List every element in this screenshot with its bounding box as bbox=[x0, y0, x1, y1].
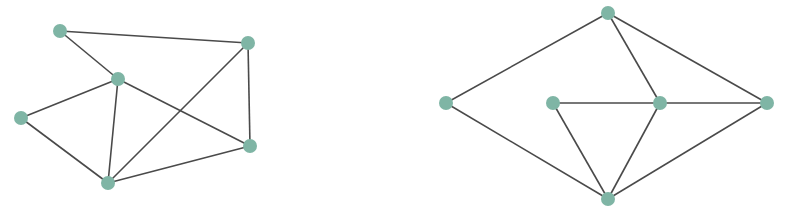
node-E bbox=[243, 139, 257, 153]
node-C bbox=[111, 72, 125, 86]
edge-P-Q bbox=[446, 13, 608, 103]
graph-left bbox=[14, 24, 257, 190]
edge-Q-U bbox=[446, 103, 608, 199]
node-Q bbox=[439, 96, 453, 110]
edge-C-E bbox=[118, 79, 250, 146]
edge-C-D bbox=[21, 79, 118, 118]
node-S bbox=[653, 96, 667, 110]
edge-P-T bbox=[608, 13, 767, 103]
edge-P-S bbox=[608, 13, 660, 103]
edge-D-F bbox=[21, 118, 108, 183]
node-D bbox=[14, 111, 28, 125]
edge-S-U bbox=[608, 103, 660, 199]
edge-R-U bbox=[553, 103, 608, 199]
graph-right bbox=[439, 6, 774, 206]
node-R bbox=[546, 96, 560, 110]
edge-C-F bbox=[108, 79, 118, 183]
node-F bbox=[101, 176, 115, 190]
graph-canvas bbox=[0, 0, 791, 216]
edge-A-B bbox=[60, 31, 248, 43]
edge-T-U bbox=[608, 103, 767, 199]
node-T bbox=[760, 96, 774, 110]
node-A bbox=[53, 24, 67, 38]
edge-E-F bbox=[108, 146, 250, 183]
node-P bbox=[601, 6, 615, 20]
edge-B-E bbox=[248, 43, 250, 146]
edge-A-C bbox=[60, 31, 118, 79]
edge-B-F bbox=[108, 43, 248, 183]
node-B bbox=[241, 36, 255, 50]
node-U bbox=[601, 192, 615, 206]
